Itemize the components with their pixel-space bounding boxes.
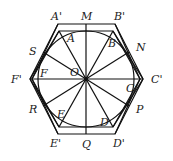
label-e: E: [56, 108, 65, 121]
geometry-diagram: A' M B' A B S N F' F O C C' R P E D E' Q…: [0, 0, 173, 161]
label-o: O: [70, 66, 79, 79]
label-p: P: [135, 103, 144, 116]
label-b: B: [107, 37, 116, 50]
label-r: R: [28, 103, 37, 116]
diagram-canvas: A' M B' A B S N F' F O C C' R P E D E' Q…: [0, 0, 173, 161]
label-d: D: [99, 116, 109, 129]
label-m: M: [80, 10, 93, 23]
center-point: [84, 77, 88, 81]
label-b-prime: B': [113, 10, 125, 23]
label-f: F: [39, 67, 48, 80]
label-f-prime: F': [10, 73, 22, 86]
label-c: C: [126, 82, 135, 95]
label-d-prime: D': [112, 137, 125, 150]
label-a-prime: A': [50, 10, 62, 23]
label-e-prime: E': [49, 137, 61, 150]
label-n: N: [135, 41, 146, 54]
label-q: Q: [82, 138, 91, 151]
label-s: S: [29, 45, 37, 58]
label-c-prime: C': [151, 73, 162, 86]
label-a: A: [66, 32, 75, 45]
